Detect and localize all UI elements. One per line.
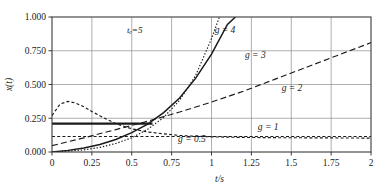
x-tick-label: 0.75 — [163, 158, 180, 168]
svg-text:g = 2: g = 2 — [282, 83, 303, 93]
x-tick-label: 2 — [369, 158, 374, 168]
line-chart: 0.0000.2500.5000.7501.000 00.250.50.7511… — [0, 0, 390, 194]
x-tick-label: 1.75 — [323, 158, 340, 168]
series-label-g1: g = 1 — [258, 122, 279, 132]
chart-annotations: tₑ=5 — [127, 25, 143, 35]
tc-annotation: tₑ=5 — [127, 25, 143, 35]
y-tick-label: 0.000 — [25, 147, 47, 157]
y-tick-label: 0.750 — [25, 46, 47, 56]
svg-text:g = 4: g = 4 — [215, 25, 236, 35]
series-label-g4: g = 4 — [215, 25, 236, 35]
y-tick-label: 1.000 — [25, 12, 47, 22]
svg-text:g = 0.5: g = 0.5 — [178, 134, 206, 144]
series-label-g0.5: g = 0.5 — [178, 134, 206, 144]
svg-text:g = 1: g = 1 — [258, 122, 279, 132]
series-label-g3: g = 3 — [245, 50, 266, 60]
svg-text:g = 3: g = 3 — [245, 50, 266, 60]
x-tick-label: 0.5 — [126, 158, 138, 168]
x-axis-title: t/s — [215, 174, 224, 184]
x-tick-label: 1.5 — [285, 158, 297, 168]
series-label-g2: g = 2 — [282, 83, 303, 93]
y-tick-label: 0.250 — [25, 114, 47, 124]
x-tick-label: 1 — [209, 158, 214, 168]
x-tick-label: 0 — [50, 158, 55, 168]
y-axis-title: x(t) — [4, 78, 15, 92]
y-tick-label: 0.500 — [25, 80, 47, 90]
y-axis-tick-labels: 0.0000.2500.5000.7501.000 — [25, 12, 47, 157]
figure-container: 0.0000.2500.5000.7501.000 00.250.50.7511… — [0, 0, 390, 194]
gridlines — [52, 17, 371, 152]
x-axis-tick-labels: 00.250.50.7511.251.51.752 — [50, 158, 374, 168]
x-tick-label: 1.25 — [243, 158, 260, 168]
x-tick-label: 0.25 — [84, 158, 101, 168]
